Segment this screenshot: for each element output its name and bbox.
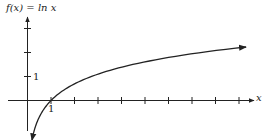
ln-curve [32, 47, 246, 140]
axes [8, 17, 254, 131]
ln-chart [0, 0, 267, 140]
axis-ticks [24, 29, 239, 105]
x-axis-label: x [256, 92, 262, 103]
y-tick-label-1: 1 [33, 71, 39, 82]
x-tick-label-1: 1 [48, 103, 54, 114]
chart-title: f(x) = ln x [6, 2, 56, 13]
